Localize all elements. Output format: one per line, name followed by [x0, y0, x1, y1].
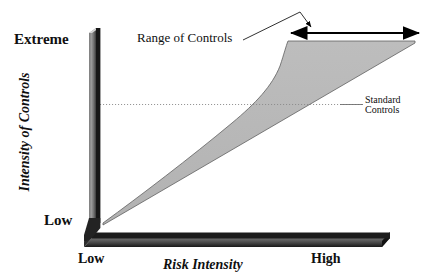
y-axis-bottom-tick-label: Low: [44, 213, 72, 228]
y-axis-bar: [89, 28, 100, 223]
standard-controls-label-line2: Controls: [365, 105, 401, 115]
x-axis-right-tick-label: High: [311, 252, 341, 266]
range-of-controls-band: [103, 41, 415, 225]
x-axis-bar: [84, 232, 390, 247]
range-of-controls-leader: [243, 12, 311, 40]
chart-figure: Extreme Low Intensity of Controls Low Hi…: [0, 0, 427, 276]
standard-controls-label: Standard Controls: [365, 95, 401, 115]
range-of-controls-label: Range of Controls: [137, 31, 232, 44]
y-axis-title: Intensity of Controls: [18, 71, 32, 193]
x-axis-title: Risk Intensity: [163, 258, 243, 272]
y-axis-top-tick-label: Extreme: [14, 32, 69, 47]
x-axis-left-tick-label: Low: [78, 252, 104, 266]
